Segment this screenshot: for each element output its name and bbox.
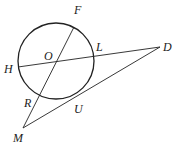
secant-line-h-to-d — [18, 47, 160, 67]
label-d: D — [162, 40, 172, 54]
label-o: O — [44, 49, 53, 63]
label-f: F — [73, 3, 82, 17]
label-m: M — [12, 131, 24, 145]
diagram-canvas: F O L H D R U M — [0, 0, 181, 155]
geometry-diagram: F O L H D R U M — [0, 0, 181, 155]
label-u: U — [74, 102, 84, 116]
label-r: R — [23, 96, 32, 110]
circle-o — [18, 23, 94, 99]
label-h: H — [3, 62, 14, 76]
label-l: L — [95, 40, 103, 54]
